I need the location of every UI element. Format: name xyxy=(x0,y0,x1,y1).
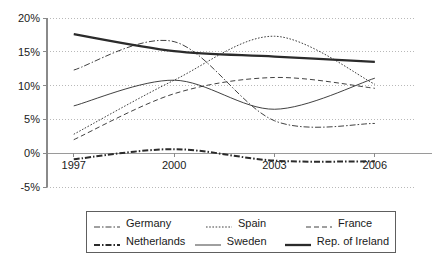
series-line xyxy=(74,78,375,109)
y-tick-label: 20% xyxy=(18,12,40,24)
chart-legend: GermanySpainFranceNetherlandsSwedenRep. … xyxy=(86,211,396,253)
y-tick-label: 10% xyxy=(18,80,40,92)
legend-line-swatch xyxy=(93,236,121,246)
y-tick-label: 5% xyxy=(24,113,40,125)
legend-row: GermanySpainFrance xyxy=(93,214,389,232)
legend-line-swatch xyxy=(205,218,233,228)
legend-row: NetherlandsSwedenRep. of Ireland xyxy=(93,232,389,250)
gridlines xyxy=(47,18,415,187)
series-line xyxy=(74,149,375,162)
legend-item-label: Spain xyxy=(238,217,266,229)
legend-item-label: Netherlands xyxy=(126,235,185,247)
x-tick-label: 2000 xyxy=(162,159,186,171)
legend-item-sweden[interactable]: Sweden xyxy=(194,235,284,247)
y-tick-label: -5% xyxy=(20,181,40,193)
legend-line-swatch xyxy=(305,218,333,228)
x-tick-label: 2006 xyxy=(363,159,387,171)
series-lines xyxy=(74,34,375,161)
legend-line-swatch xyxy=(194,236,222,246)
legend-line-swatch xyxy=(284,236,312,246)
legend-item-france[interactable]: France xyxy=(305,217,389,229)
legend-item-label: Sweden xyxy=(227,235,267,247)
y-axis xyxy=(43,18,47,187)
legend-item-label: France xyxy=(338,217,372,229)
legend-item-spain[interactable]: Spain xyxy=(205,217,305,229)
legend-item-label: Germany xyxy=(126,217,171,229)
series-line xyxy=(74,34,375,62)
legend-item-label: Rep. of Ireland xyxy=(317,235,389,247)
legend-item-netherlands[interactable]: Netherlands xyxy=(93,235,194,247)
line-chart: 20%15%10%5%0%-5% 1997200020032006 German… xyxy=(0,0,434,265)
series-line xyxy=(74,77,375,139)
x-tick-label: 1997 xyxy=(62,159,86,171)
legend-line-swatch xyxy=(93,218,121,228)
y-tick-labels: 20%15%10%5%0%-5% xyxy=(18,12,40,193)
legend-item-rep-of-ireland[interactable]: Rep. of Ireland xyxy=(284,235,389,247)
y-tick-label: 0% xyxy=(24,147,40,159)
legend-item-germany[interactable]: Germany xyxy=(93,217,205,229)
y-tick-label: 15% xyxy=(18,46,40,58)
